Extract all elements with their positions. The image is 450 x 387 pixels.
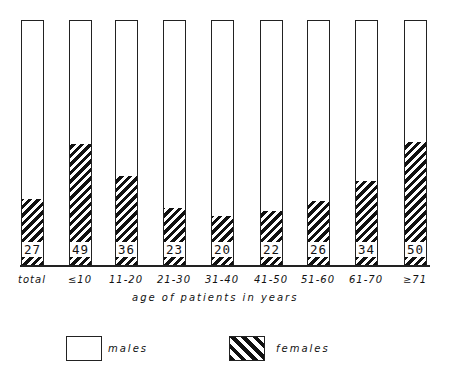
bar-value-label: 34	[356, 242, 377, 257]
x-tick-label: 41-50	[246, 274, 296, 285]
x-tick-label: 51-60	[293, 274, 343, 285]
x-tick-label: 21-30	[149, 274, 199, 285]
x-tick-label: total	[7, 274, 57, 285]
stacked-bar-chart: 274936232022263450 total≤1011-2021-3031-…	[0, 0, 450, 387]
bar-5: 22	[260, 20, 283, 266]
x-tick-label: 11-20	[101, 274, 151, 285]
legend-label-males: males	[108, 343, 148, 354]
bar-value-label: 20	[212, 242, 233, 257]
bar-value-label: 27	[22, 242, 43, 257]
bar-7: 34	[355, 20, 378, 266]
bar-value-label: 50	[405, 242, 426, 257]
x-tick-label: 61-70	[341, 274, 391, 285]
bar-4: 20	[211, 20, 234, 266]
bar-value-label: 23	[164, 242, 185, 257]
bar-1: 49	[69, 20, 92, 266]
x-tick-label: 31-40	[197, 274, 247, 285]
legend-swatch-males	[66, 336, 102, 361]
bar-3: 23	[163, 20, 186, 266]
bar-segment-females	[212, 216, 233, 265]
bar-value-label: 36	[116, 242, 137, 257]
bar-6: 26	[307, 20, 330, 266]
bar-value-label: 26	[308, 242, 329, 257]
x-tick-label: ≥71	[390, 274, 440, 285]
bar-8: 50	[404, 20, 427, 266]
bar-2: 36	[115, 20, 138, 266]
bar-value-label: 22	[261, 242, 282, 257]
legend-label-females: females	[276, 343, 330, 354]
legend-swatch-females	[229, 336, 265, 361]
bar-0: 27	[21, 20, 44, 266]
x-axis-label: age of patients in years	[132, 292, 298, 303]
x-tick-label: ≤10	[55, 274, 105, 285]
bar-value-label: 49	[70, 242, 91, 257]
